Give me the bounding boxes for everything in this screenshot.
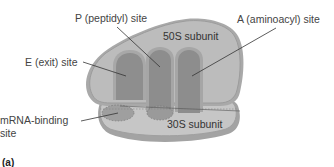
ribosome-diagram: P (peptidyl) site A (aminoacyl) site E (… — [0, 0, 334, 167]
panel-label: (a) — [2, 157, 14, 167]
small-subunit-label: 30S subunit — [167, 118, 222, 130]
a-site-shape — [178, 50, 200, 113]
mrna-site-label-line1: mRNA-binding — [0, 114, 68, 126]
large-subunit-label: 50S subunit — [163, 30, 218, 42]
e-site-shape — [116, 53, 143, 100]
a-site-label: A (aminoacyl) site — [237, 13, 320, 25]
p-site-label: P (peptidyl) site — [75, 12, 147, 24]
e-site-label: E (exit) site — [25, 56, 78, 68]
ribosome-illustration — [0, 0, 334, 167]
mrna-site-label-line2: site — [0, 127, 16, 139]
